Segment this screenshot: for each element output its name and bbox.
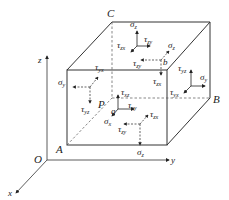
- label-front-sigma-x: σx: [104, 116, 111, 127]
- label-point-b-small: b: [163, 57, 168, 67]
- box-solid-edges: [67, 22, 210, 145]
- label-left-tau-yz: τyz: [81, 104, 90, 115]
- label-right-sigma-y: σy: [200, 72, 207, 83]
- label-b-tau-zx: τzx: [153, 76, 162, 87]
- label-right-tau-yz: τyz: [178, 63, 187, 74]
- label-top-tau-zx: τzx: [117, 40, 126, 51]
- label-left-sigma-y: σy: [58, 77, 65, 88]
- label-origin-o: O: [34, 153, 42, 165]
- label-point-p: P: [97, 98, 105, 110]
- label-axis-x: x: [7, 188, 12, 198]
- label-right-tau-yx: τyx: [170, 87, 179, 98]
- label-front-tau-xz: τxz: [121, 87, 130, 98]
- label-point-a: A: [55, 143, 63, 155]
- label-top-tau-zy: τzy: [144, 34, 153, 45]
- label-left-tau-yx: τyx: [95, 62, 104, 73]
- label-axis-z: z: [37, 55, 42, 65]
- label-point-c: C: [107, 7, 115, 19]
- left-face-stresses: [73, 77, 98, 103]
- bottom-face-stresses: [124, 115, 148, 145]
- label-front-tau-xy: τxy: [128, 100, 137, 111]
- label-axis-y: y: [170, 155, 175, 165]
- box-hidden-edges: [67, 22, 210, 145]
- label-point-a-small: a: [111, 106, 116, 116]
- label-bottom-sigma-z: σz: [137, 147, 144, 158]
- label-point-b: B: [213, 93, 220, 105]
- stress-labels: σz τzx τzy σz τzy τzx τyz σy τyx σy τyx …: [58, 19, 207, 158]
- label-b-tau-zy: τzy: [133, 58, 142, 69]
- label-bottom-tau-zx: τzx: [150, 109, 159, 120]
- stress-element-diagram: C P A B O a b z y x σz τzx τzy σz τzy τz…: [0, 0, 229, 200]
- label-top-sigma-z: σz: [130, 19, 137, 30]
- label-bottom-tau-zy: τzy: [118, 124, 127, 135]
- label-b-sigma-z: σz: [168, 40, 175, 51]
- coordinate-axes: [16, 56, 169, 193]
- x-axis: [16, 160, 47, 193]
